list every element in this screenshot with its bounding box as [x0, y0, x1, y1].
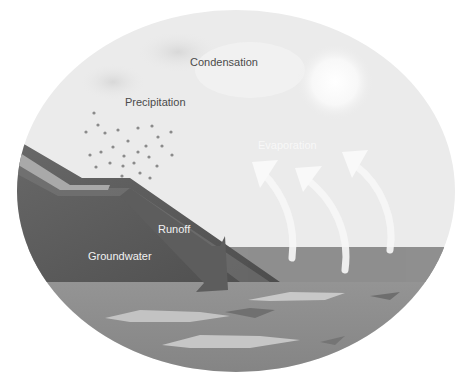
- cloud: [81, 64, 145, 100]
- sun: [297, 44, 373, 120]
- label-evaporation: Evaporation: [258, 139, 317, 151]
- label-condensation: Condensation: [190, 56, 258, 68]
- water-cycle-diagram: Condensation Precipitation Evaporation R…: [0, 0, 467, 387]
- label-groundwater: Groundwater: [88, 250, 152, 262]
- label-precipitation: Precipitation: [125, 96, 186, 108]
- label-runoff: Runoff: [158, 223, 190, 235]
